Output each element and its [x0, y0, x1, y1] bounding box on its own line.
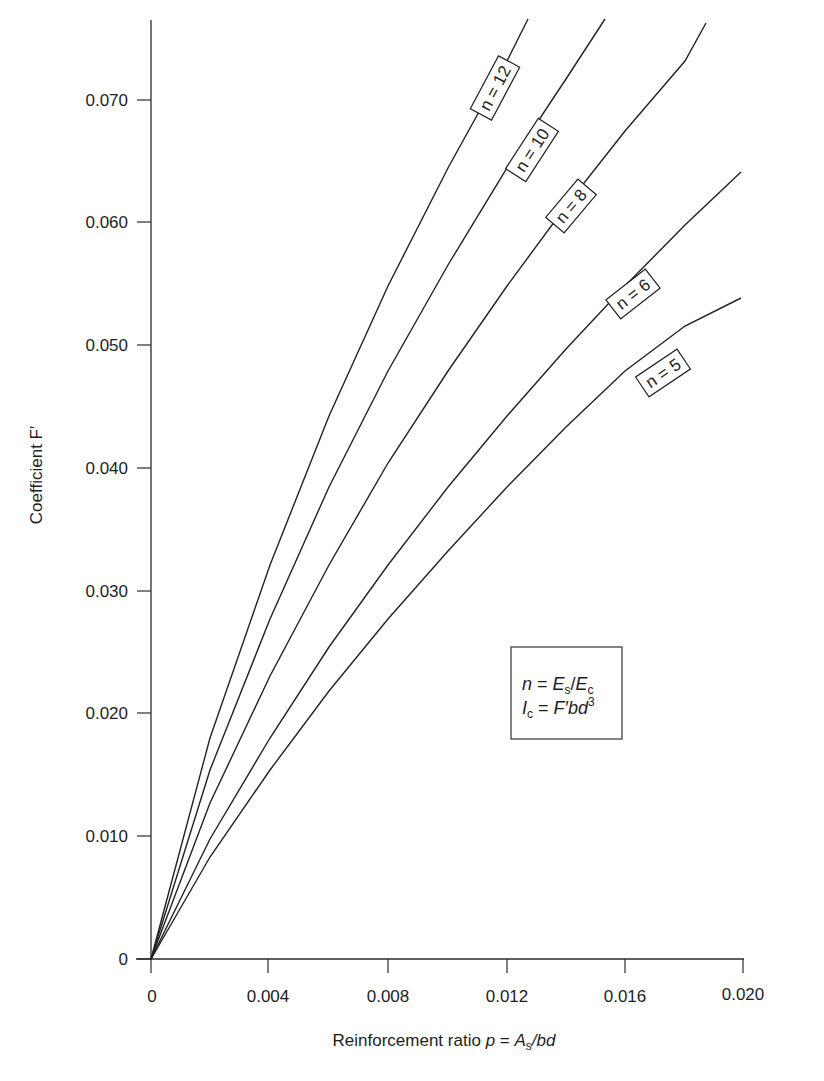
y-tick-label: 0.020 — [85, 704, 128, 723]
legend: n = Es/Ec Ic = F′bd3 — [511, 647, 622, 739]
y-tick-label: 0 — [119, 950, 128, 969]
curves — [151, 19, 741, 959]
x-tick-label: 0.012 — [486, 987, 529, 1006]
curve-label-n-10: n = 10 — [506, 118, 559, 181]
legend-line-2: Ic = F′bd3 — [522, 695, 595, 721]
y-tick-label: 0.040 — [85, 459, 128, 478]
y-tick-label: 0.030 — [85, 582, 128, 601]
y-tick-label: 0.050 — [85, 336, 128, 355]
curve-label-n-6: n = 6 — [606, 269, 660, 319]
x-tick-label: 0.004 — [247, 987, 290, 1006]
curve-n-8 — [151, 23, 706, 959]
x-tick-label: 0 — [147, 987, 156, 1006]
legend-line-1: n = Es/Ec — [522, 674, 594, 697]
curve-n-5 — [151, 298, 741, 959]
curve-label-n-12: n = 12 — [470, 56, 519, 120]
x-tick-labels: 0 0.004 0.008 0.012 0.016 0.020 — [147, 985, 764, 1006]
chart: 0 0.010 0.020 0.030 0.040 0.050 0.060 0.… — [0, 0, 824, 1081]
y-ticks — [137, 100, 151, 959]
curve-label-n-8: n = 8 — [546, 179, 597, 233]
y-tick-label: 0.070 — [85, 91, 128, 110]
x-tick-label: 0.020 — [722, 985, 765, 1004]
x-tick-label: 0.016 — [604, 987, 647, 1006]
y-tick-label: 0.060 — [85, 213, 128, 232]
x-axis-title: Reinforcement ratio p = As/bd — [333, 1031, 556, 1053]
x-ticks — [151, 959, 743, 973]
y-tick-label: 0.010 — [85, 827, 128, 846]
y-tick-labels: 0 0.010 0.020 0.030 0.040 0.050 0.060 0.… — [85, 91, 128, 969]
x-tick-label: 0.008 — [367, 987, 410, 1006]
curve-n-12 — [151, 19, 528, 959]
y-axis-title: Coefficient F′ — [27, 426, 46, 524]
